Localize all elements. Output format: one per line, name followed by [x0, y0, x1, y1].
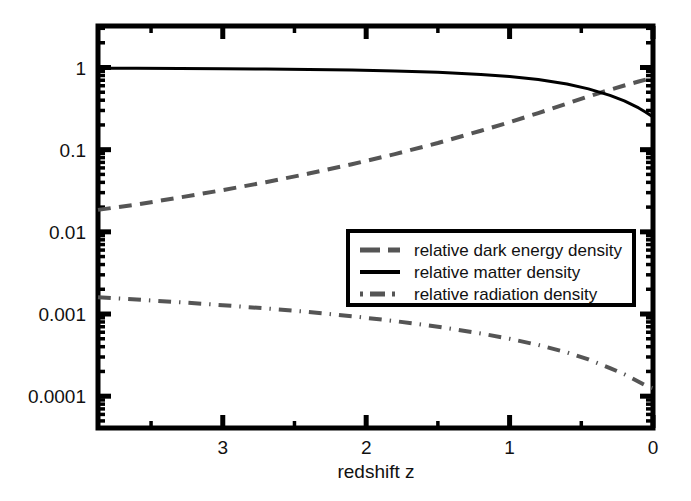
y-tick-label: 0.01 [49, 222, 86, 243]
chart-legend[interactable]: relative dark energy densityrelative mat… [348, 231, 634, 305]
x-tick-label: 0 [648, 437, 659, 458]
x-tick-label: 1 [504, 437, 515, 458]
y-tick-label: 0.1 [60, 140, 86, 161]
density-vs-redshift-chart: 10.10.010.0010.0001 3210 redshift z rela… [0, 0, 691, 501]
x-tick-label: 2 [361, 437, 372, 458]
y-tick-label: 1 [75, 58, 86, 79]
x-axis-title: redshift z [337, 461, 414, 482]
legend-label-0: relative dark energy density [414, 241, 622, 260]
y-tick-label: 0.001 [38, 304, 86, 325]
y-tick-label: 0.0001 [28, 386, 86, 407]
legend-label-1: relative matter density [414, 263, 581, 282]
figure-container: 10.10.010.0010.0001 3210 redshift z rela… [0, 0, 691, 501]
x-tick-label: 3 [217, 437, 228, 458]
legend-label-2: relative radiation density [414, 285, 598, 304]
